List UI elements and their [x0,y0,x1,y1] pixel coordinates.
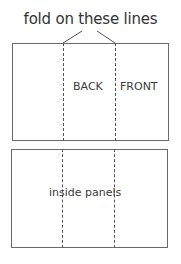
front-panel-label: FRONT [120,80,158,93]
inside-panels-label: inside panels [49,186,121,199]
back-panel-label: BACK [73,80,103,93]
top-fold-line-right [115,43,116,141]
top-fold-line-left [63,43,64,141]
